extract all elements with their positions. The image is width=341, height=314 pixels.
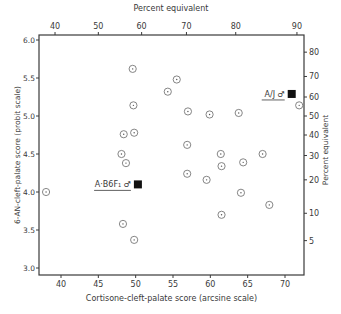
label-ab6f1: A·B6F₁ ♂ bbox=[95, 180, 131, 189]
top-tick-label: 90 bbox=[292, 22, 302, 31]
top-tick-label: 60 bbox=[137, 22, 147, 31]
data-point-dot bbox=[133, 132, 134, 133]
right-tick-label: 50 bbox=[309, 112, 319, 121]
data-point-dot bbox=[133, 105, 134, 106]
data-point-dot bbox=[133, 239, 134, 240]
right-tick-label: 60 bbox=[309, 93, 319, 102]
data-point-dot bbox=[125, 162, 126, 163]
x-tick-label: 55 bbox=[168, 280, 178, 289]
data-point-dot bbox=[221, 214, 222, 215]
top-tick-label: 40 bbox=[50, 22, 60, 31]
data-point-dot bbox=[242, 162, 243, 163]
right-tick-label: 80 bbox=[309, 48, 319, 57]
data-point-dot bbox=[122, 223, 123, 224]
x-tick-label: 70 bbox=[280, 280, 290, 289]
y-tick-label: 4.5 bbox=[23, 150, 35, 159]
y-tick-label: 4.0 bbox=[23, 188, 35, 197]
data-point-dot bbox=[167, 91, 168, 92]
data-point-dot bbox=[176, 79, 177, 80]
data-point-dot bbox=[206, 179, 207, 180]
data-point-dot bbox=[121, 153, 122, 154]
parental-strain-marker bbox=[134, 180, 142, 188]
top-axis-title: Percent equivalent bbox=[134, 4, 209, 13]
data-point-dot bbox=[209, 114, 210, 115]
x-tick-label: 40 bbox=[56, 280, 66, 289]
label-aj: A/J ♂ bbox=[264, 90, 284, 99]
data-point-dot bbox=[221, 165, 222, 166]
parental-strain-marker bbox=[288, 90, 296, 98]
y-tick-label: 5.0 bbox=[23, 112, 35, 121]
data-point-dot bbox=[132, 68, 133, 69]
data-point-dot bbox=[186, 144, 187, 145]
data-point-dot bbox=[220, 153, 221, 154]
right-tick-label: 5 bbox=[309, 237, 314, 246]
x-tick-label: 50 bbox=[131, 280, 141, 289]
data-point-dot bbox=[238, 112, 239, 113]
data-point-dot bbox=[269, 204, 270, 205]
x-tick-label: 45 bbox=[93, 280, 103, 289]
right-tick-label: 40 bbox=[309, 131, 319, 140]
y-tick-label: 3.0 bbox=[23, 264, 35, 273]
right-tick-label: 10 bbox=[309, 209, 319, 218]
data-point-dot bbox=[45, 191, 46, 192]
right-tick-label: 30 bbox=[309, 152, 319, 161]
y-tick-label: 3.5 bbox=[23, 226, 35, 235]
data-point-dot bbox=[262, 153, 263, 154]
y-axis-title: 6-AN-cleft-palate score (probit scale) bbox=[13, 86, 22, 224]
top-tick-label: 70 bbox=[181, 22, 191, 31]
scatter-chart: 40455055606570Cortisone-cleft-palate sco… bbox=[0, 0, 341, 314]
x-axis-title: Cortisone-cleft-palate score (arcsine sc… bbox=[86, 294, 257, 303]
top-tick-label: 50 bbox=[93, 22, 103, 31]
data-point-dot bbox=[187, 111, 188, 112]
right-tick-label: 20 bbox=[309, 176, 319, 185]
data-point-dot bbox=[186, 173, 187, 174]
right-axis-title: Percent equivalent bbox=[321, 115, 330, 185]
data-point-dot bbox=[123, 134, 124, 135]
data-point-dot bbox=[298, 105, 299, 106]
y-tick-label: 6.0 bbox=[23, 36, 35, 45]
right-tick-label: 70 bbox=[309, 72, 319, 81]
top-tick-label: 80 bbox=[231, 22, 241, 31]
x-tick-label: 60 bbox=[205, 280, 215, 289]
y-tick-label: 5.5 bbox=[23, 74, 35, 83]
data-point-dot bbox=[240, 192, 241, 193]
x-tick-label: 65 bbox=[243, 280, 253, 289]
